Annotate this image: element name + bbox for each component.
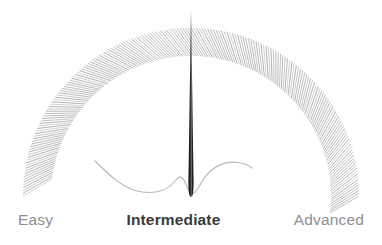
difficulty-gauge-widget: Easy Intermediate Advanced [0,0,382,245]
gauge-graphic [0,0,382,245]
gauge-label-intermediate[interactable]: Intermediate [53,210,294,230]
signal-trace-icon [95,161,252,194]
gauge-label-advanced[interactable]: Advanced [294,210,364,230]
gauge-label-easy[interactable]: Easy [18,210,53,230]
gauge-label-row: Easy Intermediate Advanced [0,210,382,240]
